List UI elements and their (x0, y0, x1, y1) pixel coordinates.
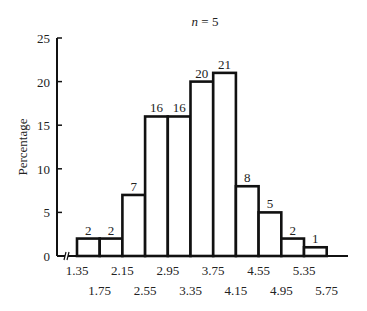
histogram-bar (213, 73, 236, 256)
histogram-bar (77, 239, 100, 256)
histogram-bar (259, 212, 282, 256)
chart-title: n = 5 (192, 14, 219, 29)
x-tick-label-bottom: 4.15 (225, 283, 248, 298)
y-tick-label: 25 (37, 31, 50, 46)
bar-value-label: 16 (150, 100, 164, 115)
bar-value-label: 20 (195, 66, 208, 81)
y-tick-label: 10 (37, 162, 50, 177)
bar-value-label: 2 (85, 223, 92, 238)
bar-value-label: 8 (244, 170, 251, 185)
x-tick-label-bottom: 3.35 (179, 283, 202, 298)
x-tick-label-bottom: 5.75 (315, 283, 338, 298)
bar-value-label: 5 (267, 196, 274, 211)
bar-value-label: 2 (289, 223, 296, 238)
histogram-bar (145, 116, 168, 256)
histogram-bar (168, 116, 191, 256)
bar-value-label: 16 (173, 100, 187, 115)
x-tick-label-top: 5.35 (293, 263, 316, 278)
y-tick-label: 0 (44, 249, 51, 264)
bars: 227161620218521 (77, 57, 327, 256)
x-tick-label-top: 2.95 (156, 263, 179, 278)
y-axis: 0510152025 (37, 31, 62, 264)
y-axis-label: Percentage (15, 118, 30, 175)
x-tick-label-top: 2.15 (111, 263, 134, 278)
bar-value-label: 2 (108, 223, 115, 238)
y-tick-label: 5 (44, 205, 51, 220)
x-tick-label-top: 3.75 (202, 263, 225, 278)
histogram-bar (236, 186, 259, 256)
histogram-bar (304, 247, 327, 256)
y-label-text: Percentage (15, 118, 30, 175)
x-tick-label-bottom: 1.75 (88, 283, 111, 298)
bar-value-label: 1 (312, 231, 319, 246)
histogram-bar (100, 239, 123, 256)
histogram-bar (281, 239, 304, 256)
y-tick-label: 15 (37, 118, 50, 133)
histogram-chart: n = 5 0510152025 Percentage 227161620218… (0, 0, 367, 311)
bar-value-label: 7 (131, 179, 138, 194)
histogram-bar (191, 82, 214, 256)
title-text: n = 5 (192, 14, 219, 29)
bar-value-label: 21 (218, 57, 231, 72)
x-tick-label-top: 4.55 (247, 263, 270, 278)
x-tick-label-bottom: 4.95 (270, 283, 293, 298)
histogram-bar (122, 195, 145, 256)
y-tick-label: 20 (37, 75, 50, 90)
x-tick-label-top: 1.35 (66, 263, 89, 278)
x-axis: 1.352.152.953.754.555.351.752.553.354.15… (57, 252, 348, 298)
x-tick-label-bottom: 2.55 (134, 283, 157, 298)
